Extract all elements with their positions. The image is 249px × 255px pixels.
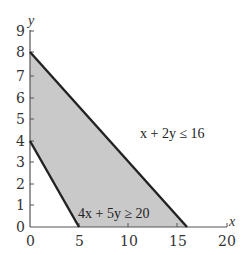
x-tick-0: 0 bbox=[26, 233, 35, 249]
y-tick-8: 8 bbox=[16, 44, 25, 60]
y-tick-9: 9 bbox=[16, 23, 25, 39]
y-tick-3: 3 bbox=[16, 154, 25, 170]
y-tick-6: 6 bbox=[16, 90, 25, 106]
annotation-4x-plus-5y: 4x + 5y ≥ 20 bbox=[78, 206, 150, 221]
x-tick-10: 10 bbox=[120, 233, 138, 249]
annotation-x-plus-2y: x + 2y ≤ 16 bbox=[140, 126, 205, 141]
x-tick-15: 15 bbox=[169, 233, 187, 249]
y-axis-label: y bbox=[26, 13, 35, 28]
y-tick-1: 1 bbox=[16, 197, 25, 213]
y-tick-2: 2 bbox=[16, 176, 25, 192]
x-tick-20: 20 bbox=[218, 233, 236, 249]
y-tick-0: 0 bbox=[16, 219, 25, 235]
y-tick-5: 5 bbox=[16, 111, 25, 127]
x-tick-5: 5 bbox=[75, 233, 84, 249]
y-tick-4: 4 bbox=[16, 133, 25, 149]
inequality-graph: 0 1 2 3 4 5 6 7 8 9 0 5 10 15 20 y x x +… bbox=[0, 0, 249, 255]
y-tick-7: 7 bbox=[16, 68, 25, 84]
x-axis-label: x bbox=[228, 214, 236, 229]
